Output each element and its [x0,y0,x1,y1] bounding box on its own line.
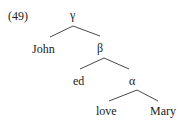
node-beta: β [97,42,103,54]
edge-beta-ed [80,58,104,69]
edge-beta-alpha [104,58,129,69]
node-love: love [96,105,117,117]
edge-gamma-beta [73,26,100,36]
node-gamma: γ [70,9,75,21]
node-mary: Mary [150,105,176,117]
edge-alpha-mary [137,90,158,101]
node-ed: ed [73,75,84,87]
edge-gamma-john [50,26,73,37]
edge-alpha-love [109,90,137,101]
node-john: John [32,43,55,55]
node-alpha: α [129,75,135,87]
